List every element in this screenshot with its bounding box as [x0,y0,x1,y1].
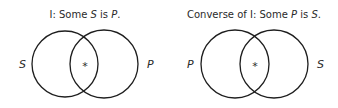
existence-marker: * [252,60,258,73]
diagram-title: Converse of I: Some P is S. [187,9,321,20]
venn-diagram-converse: Converse of I: Some P is S. P S * [187,9,324,98]
existence-marker: * [82,60,88,73]
venn-diagram-i: I: Some S is P. S P * [19,9,154,98]
label-right: S [317,58,324,71]
label-left: P [187,58,194,71]
venn-diagrams: I: Some S is P. S P * Converse of I: Som… [0,0,338,108]
circle-p [201,30,269,98]
circle-p [70,30,138,98]
diagram-title: I: Some S is P. [50,9,121,20]
label-left: S [19,58,26,71]
circle-s [32,31,98,97]
circle-s [240,30,308,98]
label-right: P [147,58,154,71]
